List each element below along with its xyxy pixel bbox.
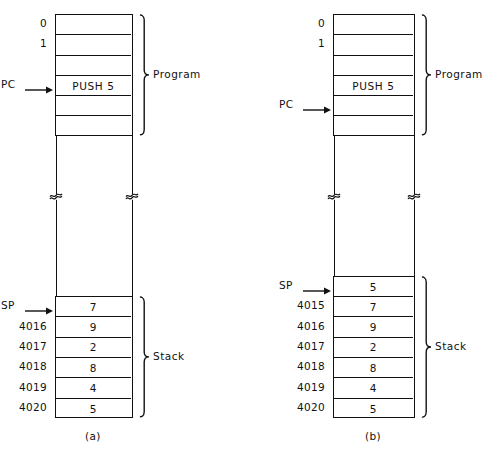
memory-connector-right	[132, 136, 133, 296]
stack-brace	[139, 296, 150, 418]
address-label: 1	[279, 37, 325, 49]
memory-cell-value: 2	[370, 341, 377, 353]
memory-cell	[56, 56, 131, 76]
address-label: 1	[1, 37, 47, 49]
memory-cell: 2	[334, 338, 413, 358]
memory-cell-value: 8	[90, 362, 97, 374]
memory-cell-value: 4	[90, 382, 97, 394]
stack-brace	[421, 276, 432, 418]
pointer-label-sp: SP	[279, 279, 293, 291]
memory-cell	[334, 35, 413, 55]
break-mark-right	[407, 189, 421, 203]
pointer-label-pc: PC	[279, 98, 293, 110]
memory-cell: PUSH 5	[334, 76, 413, 96]
memory-cell: 9	[56, 317, 131, 337]
memory-connector-left	[56, 136, 57, 296]
memory-cell-value: 9	[370, 321, 377, 333]
program-brace	[139, 14, 150, 136]
memory-cell: 8	[334, 358, 413, 378]
stack-memory-box: 5792845	[333, 276, 415, 418]
address-label: 4020	[279, 401, 325, 413]
program-brace	[421, 14, 432, 136]
program-memory-box: PUSH 5	[333, 14, 415, 136]
address-label: 4019	[279, 381, 325, 393]
memory-cell: 5	[334, 277, 413, 297]
address-label: 4016	[279, 320, 325, 332]
memory-cell-value: 5	[370, 281, 377, 293]
memory-cell	[334, 56, 413, 76]
panel-a: PUSH 5 792845 Program Stack (a) 01PCSP40…	[0, 0, 244, 461]
memory-connector-right	[414, 136, 415, 276]
address-label: 0	[279, 17, 325, 29]
memory-cell: 5	[334, 399, 413, 419]
panel-caption: (a)	[85, 430, 101, 442]
address-label: 0	[1, 17, 47, 29]
address-label: 4017	[279, 340, 325, 352]
memory-cell-value: 5	[370, 403, 377, 415]
memory-cell: 7	[334, 297, 413, 317]
stack-group-label: Stack	[153, 350, 185, 362]
memory-connector-left	[334, 136, 335, 276]
memory-cell-value: 8	[370, 362, 377, 374]
address-label: 4018	[1, 360, 47, 372]
address-label: 4020	[1, 401, 47, 413]
address-label: 4015	[279, 299, 325, 311]
memory-cell	[334, 96, 413, 116]
program-group-label: Program	[153, 68, 201, 80]
pointer-arrow-pc-icon	[303, 100, 331, 110]
memory-cell: PUSH 5	[56, 76, 131, 96]
address-label: 4016	[1, 320, 47, 332]
program-memory-box: PUSH 5	[55, 14, 133, 136]
memory-cell: 9	[334, 317, 413, 337]
memory-cell-value: PUSH 5	[72, 80, 114, 92]
pointer-arrow-pc-icon	[25, 80, 53, 90]
memory-cell: 4	[334, 378, 413, 398]
address-label: 4017	[1, 340, 47, 352]
memory-cell	[56, 96, 131, 116]
memory-cell	[56, 117, 131, 137]
pointer-arrow-sp-icon	[303, 281, 331, 291]
pointer-label-pc: PC	[1, 78, 15, 90]
pointer-label-sp: SP	[1, 299, 15, 311]
address-label: 4019	[1, 381, 47, 393]
memory-cell-value: 9	[90, 321, 97, 333]
memory-cell-value: 7	[90, 301, 97, 313]
memory-cell	[56, 35, 131, 55]
break-mark-right	[125, 189, 139, 203]
stack-push-figure: PUSH 5 792845 Program Stack (a) 01PCSP40…	[0, 0, 488, 461]
pointer-arrow-sp-icon	[25, 301, 53, 311]
program-group-label: Program	[435, 68, 483, 80]
memory-cell	[56, 15, 131, 35]
memory-cell-value: 7	[370, 301, 377, 313]
memory-cell	[334, 15, 413, 35]
memory-cell: 7	[56, 297, 131, 317]
memory-cell-value: PUSH 5	[352, 80, 394, 92]
panel-b: PUSH 5 5792845 Program Stack (b) 01PCSP4…	[244, 0, 488, 461]
break-mark-left	[49, 189, 63, 203]
address-label: 4018	[279, 360, 325, 372]
memory-cell-value: 4	[370, 382, 377, 394]
memory-cell	[334, 117, 413, 137]
memory-cell-value: 5	[90, 403, 97, 415]
panel-caption: (b)	[365, 430, 381, 442]
memory-cell: 8	[56, 358, 131, 378]
memory-cell-value: 2	[90, 341, 97, 353]
break-mark-left	[327, 189, 341, 203]
memory-cell: 4	[56, 378, 131, 398]
stack-memory-box: 792845	[55, 296, 133, 418]
stack-group-label: Stack	[435, 340, 467, 352]
memory-cell: 5	[56, 399, 131, 419]
memory-cell: 2	[56, 338, 131, 358]
